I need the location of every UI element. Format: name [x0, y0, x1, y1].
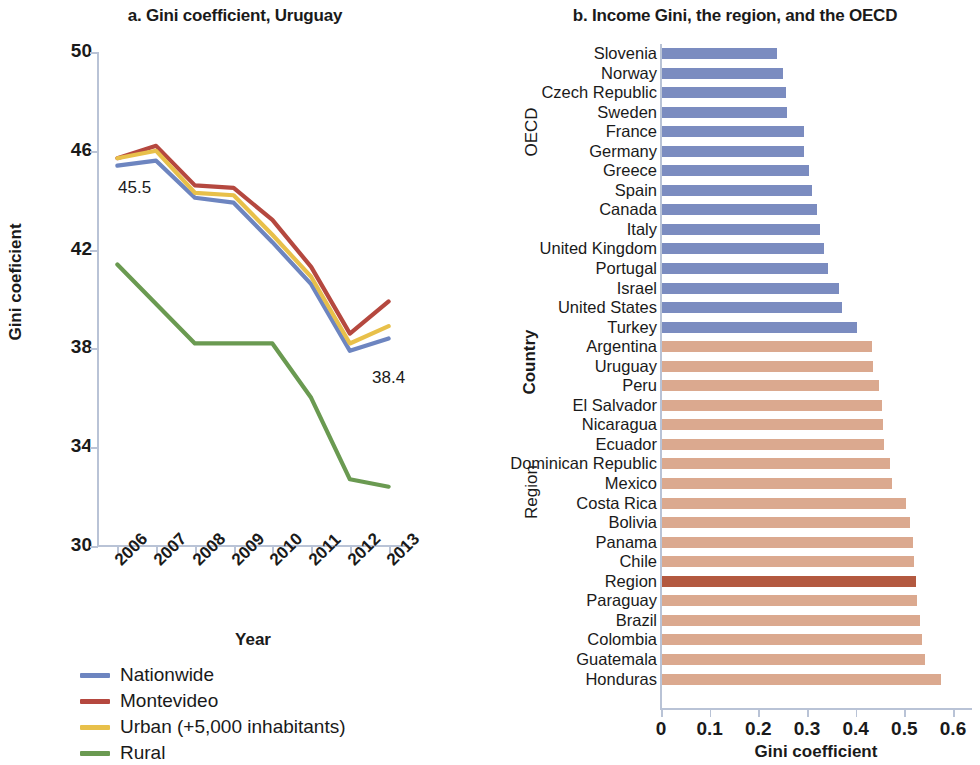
panel-b-bar-row[interactable]: Italy — [490, 220, 980, 240]
panel-a-y-tick-label: 30 — [60, 534, 92, 556]
panel-b-bar-row[interactable]: Argentina — [490, 337, 980, 357]
panel-b-bar-row[interactable]: Colombia — [490, 630, 980, 650]
panel-b-bar-row[interactable]: Chile — [490, 552, 980, 572]
panel-b-x-tick-mark — [807, 709, 809, 717]
panel-b-bar-row[interactable]: Norway — [490, 64, 980, 84]
panel-b-x-tick-label: 0.5 — [891, 718, 917, 740]
panel-b-x-tick-mark — [904, 709, 906, 717]
panel-b-bar-row[interactable]: Slovenia — [490, 44, 980, 64]
panel-a-legend-item[interactable]: Montevideo — [80, 688, 346, 714]
panel-b-bar-row[interactable]: Costa Rica — [490, 494, 980, 514]
panel-a-y-tick-label: 50 — [60, 40, 92, 62]
panel-b-bar-fill — [661, 576, 916, 587]
panel-b-bar-row[interactable]: Bolivia — [490, 513, 980, 533]
panel-b-bar-label: United Kingdom — [540, 239, 657, 259]
panel-b-bar-row[interactable]: Germany — [490, 142, 980, 162]
panel-a-legend-swatch — [80, 751, 110, 756]
panel-b-bar-row[interactable]: United States — [490, 298, 980, 318]
panel-b-bar-row[interactable]: Czech Republic — [490, 83, 980, 103]
panel-b-bar-label: Czech Republic — [541, 83, 657, 103]
panel-b-bar-fill — [661, 68, 783, 79]
panel-b-bar-row[interactable]: Honduras — [490, 670, 980, 690]
panel-b-bar-row[interactable]: Sweden — [490, 103, 980, 123]
panel-b-bar-fill — [661, 204, 817, 215]
panel-b-bar-label: Paraguay — [586, 591, 657, 611]
panel-b-bar-row[interactable]: Canada — [490, 200, 980, 220]
panel-a-y-tick-mark — [90, 52, 98, 54]
panel-b-bar-fill — [661, 185, 812, 196]
panel-a-y-axis-label: Gini coeficient — [6, 202, 26, 362]
panel-b-bar-fill — [661, 361, 873, 372]
panel-b-x-axis-label: Gini coefficient — [660, 742, 972, 762]
panel-a-annotation-end: 38.4 — [372, 368, 405, 388]
panel-b-bar-fill — [661, 458, 890, 469]
panel-b-bar-label: Turkey — [607, 318, 657, 338]
panel-b-bar-row[interactable]: Panama — [490, 533, 980, 553]
panel-b-x-tick-label: 0 — [656, 718, 667, 740]
panel-b-bar-row[interactable]: Uruguay — [490, 357, 980, 377]
panel-b-bar-fill — [661, 107, 787, 118]
panel-b-bar-fill — [661, 322, 857, 333]
panel-b-bar-label: France — [606, 122, 657, 142]
panel-a-legend-label: Nationwide — [120, 664, 214, 686]
panel-b-bar-fill — [661, 654, 925, 665]
panel-b-bar-fill — [661, 595, 917, 606]
panel-b-x-tick-mark — [661, 709, 663, 717]
panel-b-bar-row[interactable]: Nicaragua — [490, 415, 980, 435]
panel-b-bar-row[interactable]: Guatemala — [490, 650, 980, 670]
panel-b-bar-fill — [661, 400, 882, 411]
panel-b-bar-label: Costa Rica — [576, 494, 657, 514]
panel-b-x-tick-mark — [953, 709, 955, 717]
panel-b-bar-label: Dominican Republic — [510, 454, 657, 474]
panel-b-bar-fill — [661, 439, 884, 450]
panel-b-bar-label: Bolivia — [608, 513, 657, 533]
panel-b-bar-label: Uruguay — [595, 357, 657, 377]
panel-a-legend-item[interactable]: Rural — [80, 740, 346, 765]
panel-b-bar-row[interactable]: Portugal — [490, 259, 980, 279]
panel-b-bar-row[interactable]: Turkey — [490, 318, 980, 338]
panel-b-bar-row[interactable]: El Salvador — [490, 396, 980, 416]
panel-b-bar-label: El Salvador — [573, 396, 657, 416]
panel-b-bar-label: Portugal — [596, 259, 657, 279]
panel-b-bar-fill — [661, 517, 910, 528]
panel-b-bar-label: Region — [605, 572, 657, 592]
panel-a-y-tick-mark — [90, 546, 98, 548]
panel-b-bar-row[interactable]: Ecuador — [490, 435, 980, 455]
panel-b-x-tick-mark — [710, 709, 712, 717]
panel-b-x-tick-label: 0.1 — [696, 718, 722, 740]
panel-b-bar-fill — [661, 556, 914, 567]
panel-b-bar-label: Colombia — [587, 630, 657, 650]
panel-a-legend-item[interactable]: Nationwide — [80, 662, 346, 688]
panel-b-bar-label: Spain — [615, 181, 657, 201]
panel-b-bar-row[interactable]: France — [490, 122, 980, 142]
panel-b-bar-row[interactable]: Region — [490, 572, 980, 592]
panel-b-bar-row[interactable]: Mexico — [490, 474, 980, 494]
panel-b-bar-fill — [661, 224, 820, 235]
panel-a-annotation-start: 45.5 — [118, 178, 151, 198]
panel-b-bar-fill — [661, 498, 906, 509]
panel-b-bar-row[interactable]: Israel — [490, 279, 980, 299]
panel-b-bar-label: Canada — [599, 200, 657, 220]
panel-b-bar-label: Slovenia — [594, 44, 657, 64]
panel-b-bar-label: Sweden — [597, 103, 657, 123]
panel-a-legend-label: Montevideo — [120, 690, 218, 712]
panel-b-bar-label: Peru — [622, 376, 657, 396]
panel-b-bar-fill — [661, 419, 883, 430]
panel-b-bar-row[interactable]: Dominican Republic — [490, 454, 980, 474]
panel-b-bar-label: Mexico — [605, 474, 657, 494]
panel-b-bar-fill — [661, 380, 879, 391]
panel-b-bar-row[interactable]: Brazil — [490, 611, 980, 631]
panel-b-bar-row[interactable]: Paraguay — [490, 591, 980, 611]
panel-b-bar-row[interactable]: Greece — [490, 161, 980, 181]
panel-a-y-tick-label: 38 — [60, 336, 92, 358]
panel-b-bar-fill — [661, 165, 809, 176]
panel-b-bar-row[interactable]: Spain — [490, 181, 980, 201]
panel-b-bar-row[interactable]: United Kingdom — [490, 239, 980, 259]
panel-b-bar-fill — [661, 615, 920, 626]
panel-a-legend-item[interactable]: Urban (+5,000 inhabitants) — [80, 714, 346, 740]
panel-a-y-tick-mark — [90, 447, 98, 449]
panel-b-bar-label: Guatemala — [576, 650, 657, 670]
panel-a-legend-swatch — [80, 699, 110, 704]
panel-b-bar-chart: b. Income Gini, the region, and the OECD… — [490, 0, 980, 765]
panel-b-bar-row[interactable]: Peru — [490, 376, 980, 396]
